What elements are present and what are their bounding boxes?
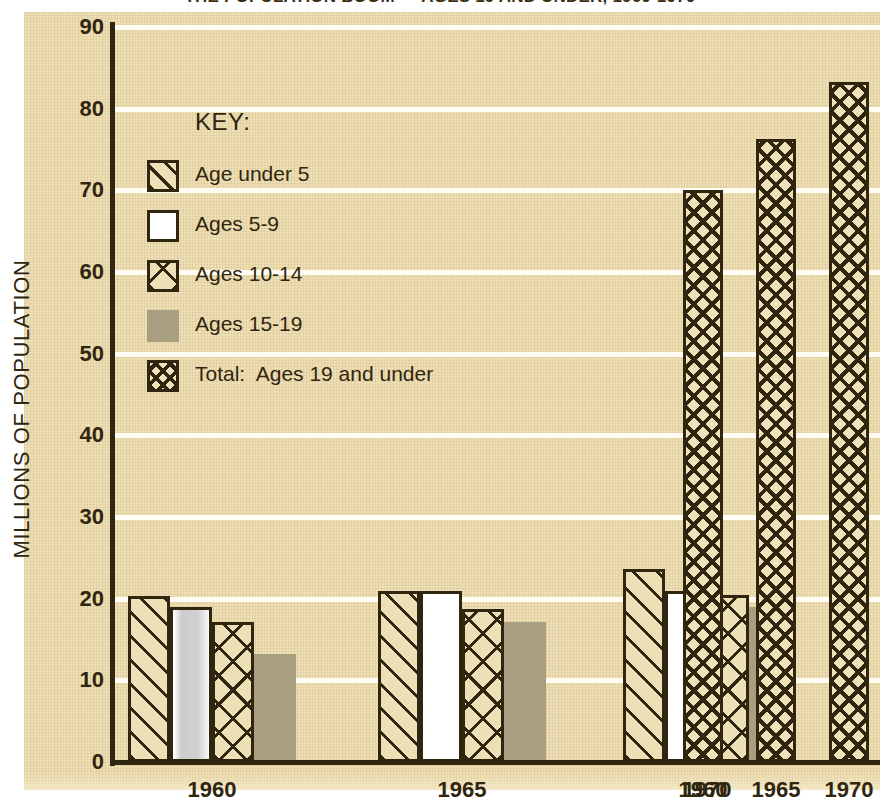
legend-swatch-dense-cross-hatch-icon: [147, 360, 179, 392]
bar-1970-age-under-5: [623, 569, 665, 762]
legend-item-label: Ages 5-9: [195, 212, 279, 236]
bar-total-1965: [756, 139, 796, 762]
y-tick-label: 70: [44, 177, 104, 203]
x-axis-spine: [110, 760, 880, 765]
legend-item-age-under-5: Age under 5: [147, 158, 507, 208]
legend-rows: Age under 5Ages 5-9Ages 10-14Ages 15-19T…: [147, 158, 507, 408]
legend-swatch-solid-gray-icon: [147, 310, 179, 342]
x-tick-label: 1965: [752, 777, 801, 803]
bar-1960-ages-5-9: [170, 607, 212, 762]
y-axis-title: MILLIONS OF POPULATION: [9, 129, 35, 689]
bar-1960-ages-10-14: [212, 622, 254, 762]
chart-title: THE POPULATION BOOM — AGES 19 AND UNDER,…: [0, 0, 880, 9]
legend-item-ages-10-14: Ages 10-14: [147, 258, 507, 308]
bar-total-1970: [829, 82, 869, 762]
y-tick-label: 20: [44, 586, 104, 612]
legend-item-ages-5-9: Ages 5-9: [147, 208, 507, 258]
legend-item-label: Total: Ages 19 and under: [195, 362, 433, 386]
x-tick-label: 1960: [679, 777, 728, 803]
y-tick-label: 60: [44, 259, 104, 285]
y-tick-label: 40: [44, 422, 104, 448]
legend-title: KEY:: [195, 108, 507, 136]
bar-1965-age-under-5: [378, 591, 420, 763]
x-tick-label: 1970: [825, 777, 874, 803]
x-tick-label: 1960: [188, 777, 237, 803]
legend-item-label: Age under 5: [195, 162, 309, 186]
y-tick-label: 10: [44, 667, 104, 693]
bar-1965-ages-10-14: [462, 609, 504, 762]
bar-1960-age-under-5: [128, 596, 170, 762]
y-tick-label: 80: [44, 96, 104, 122]
legend-item-label: Ages 10-14: [195, 262, 302, 286]
bar-total-1960: [683, 190, 723, 762]
x-tick-label: 1965: [438, 777, 487, 803]
bar-1960-ages-15-19: [254, 654, 296, 762]
legend-swatch-diagonal-hatch-icon: [147, 160, 179, 192]
y-tick-label: 50: [44, 341, 104, 367]
chart-page: THE POPULATION BOOM — AGES 19 AND UNDER,…: [0, 0, 880, 809]
legend-swatch-solid-white-icon: [147, 210, 179, 242]
y-tick-label: 90: [44, 14, 104, 40]
legend-item-ages-15-19: Ages 15-19: [147, 308, 507, 358]
legend-item-total-ages-19-and-under: Total: Ages 19 and under: [147, 358, 507, 408]
bar-1965-ages-15-19: [504, 622, 546, 762]
y-axis-spine: [110, 22, 115, 766]
bar-1965-ages-5-9: [420, 591, 462, 763]
legend: KEY: Age under 5Ages 5-9Ages 10-14Ages 1…: [147, 108, 507, 408]
y-tick-label: 30: [44, 504, 104, 530]
y-tick-label: 0: [44, 749, 104, 775]
legend-swatch-cross-hatch-icon: [147, 260, 179, 292]
legend-item-label: Ages 15-19: [195, 312, 302, 336]
gridline: [114, 25, 880, 30]
